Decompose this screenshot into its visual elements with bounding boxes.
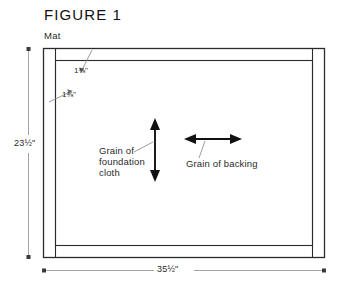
grain-backing-arrowhead-right <box>230 134 242 144</box>
mat-outer-rectangle <box>44 49 325 258</box>
grain-backing-leader-line <box>199 141 205 158</box>
left-inset-dimension-label: 1⅜" <box>62 90 76 99</box>
width-dimension-endpoint-right <box>322 269 326 273</box>
mat-inner-opening-rectangle <box>56 61 313 246</box>
figure-canvas: FIGURE 1 Mat 23½" 35½" 1⅜" 1⅜" Grain of … <box>0 0 347 284</box>
grain-foundation-cloth-label: Grain of foundation cloth <box>99 145 145 179</box>
width-dimension-label: 35½" <box>157 264 179 275</box>
grain-backing-label: Grain of backing <box>186 158 258 169</box>
top-inset-dimension-label: 1⅜" <box>74 66 88 75</box>
height-dimension-label: 23½" <box>14 138 36 149</box>
figure-title: FIGURE 1 <box>44 6 122 24</box>
diagram-vector-layer <box>0 0 347 284</box>
grain-foundation-arrowhead-up <box>150 118 160 130</box>
mat-part-label: Mat <box>44 30 61 41</box>
grain-foundation-arrowhead-down <box>150 170 160 182</box>
height-dimension-endpoint-top <box>27 47 31 51</box>
height-dimension-endpoint-bottom <box>27 255 31 259</box>
width-dimension-endpoint-left <box>42 269 46 273</box>
grain-backing-arrowhead-left <box>184 134 196 144</box>
